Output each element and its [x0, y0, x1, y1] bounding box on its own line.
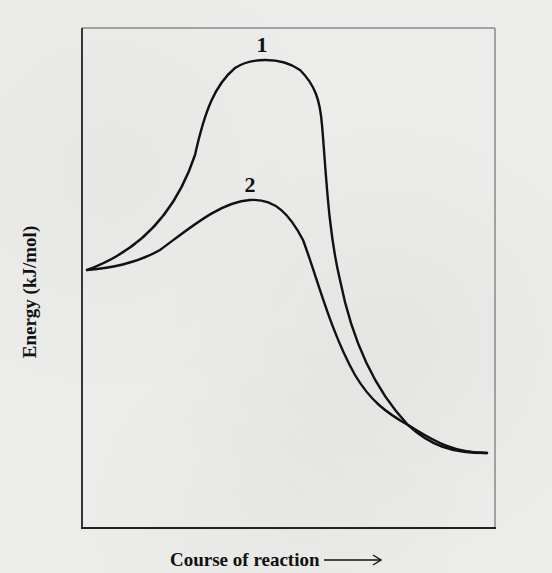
- curve-1-label: 1: [257, 32, 268, 58]
- curve-2-label: 2: [245, 172, 256, 198]
- curve-2-line: [87, 200, 487, 453]
- energy-profile-chart: [0, 0, 552, 573]
- y-axis-label: Energy (kJ/mol): [19, 226, 41, 358]
- x-axis-label-group: Course of reaction: [170, 549, 384, 571]
- right-arrow-icon: [322, 549, 384, 571]
- x-axis-label: Course of reaction: [170, 549, 320, 571]
